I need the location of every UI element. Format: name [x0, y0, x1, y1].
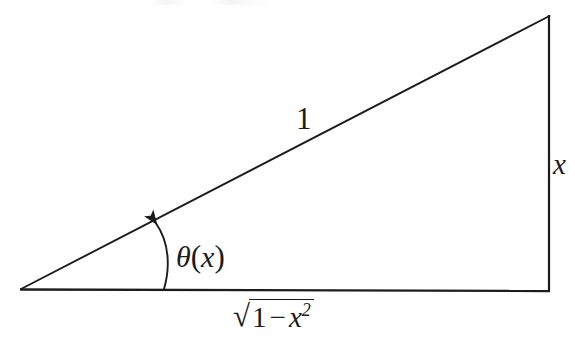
radicand-group: 1−x2 [249, 299, 314, 332]
radical-sign-symbol: √ [233, 300, 250, 331]
paren-close-symbol: ) [214, 239, 224, 274]
angle-theta-label: θ(x) [176, 241, 225, 272]
paren-open-symbol: ( [191, 239, 201, 274]
adjacent-side-line [20, 290, 550, 292]
angle-variable-symbol: x [201, 240, 214, 273]
hypotenuse-line [21, 16, 550, 289]
hypotenuse-length-label: 1 [296, 103, 312, 134]
figure-canvas: 1 x θ(x) √ 1−x2 [0, 0, 575, 340]
triangle-diagram-svg [0, 0, 575, 340]
theta-symbol: θ [176, 240, 191, 273]
adjacent-side-length-label: √ 1−x2 [233, 299, 314, 332]
radicand-exponent: 2 [302, 300, 311, 320]
opposite-side-length-label: x [553, 150, 566, 179]
radicand-variable: x [289, 301, 302, 333]
radicand-minus-sign: − [267, 301, 289, 333]
radicand-one: 1 [252, 301, 267, 333]
angle-arc-arrow [156, 223, 168, 290]
